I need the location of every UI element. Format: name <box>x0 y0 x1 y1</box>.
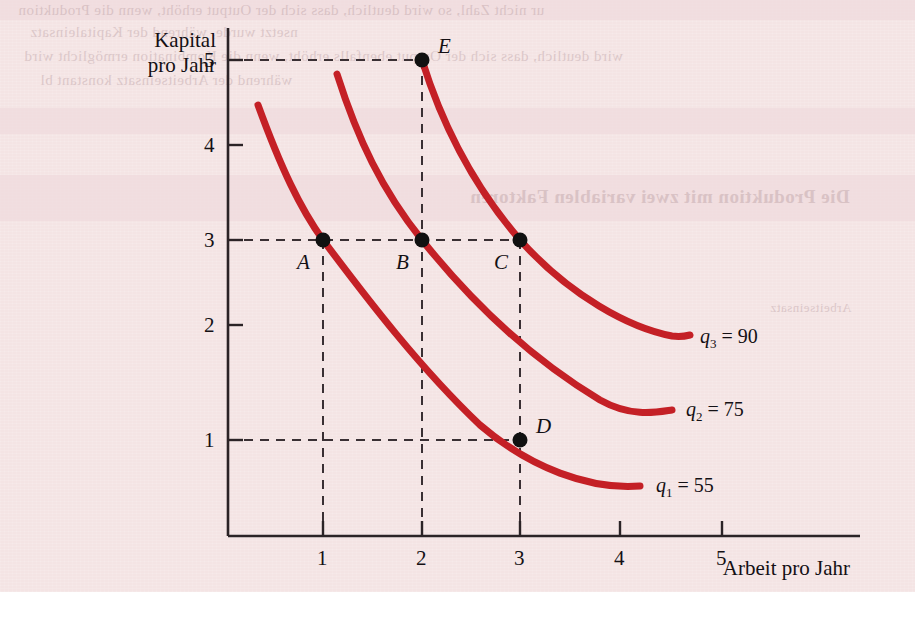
point-label-c: C <box>494 250 508 275</box>
point-label-d: D <box>536 414 551 439</box>
y-axis-title: Kapital pro Jahr <box>108 28 216 78</box>
isoquant-subscript-q3: 3 <box>710 336 717 351</box>
y-tick-label-3: 3 <box>204 228 215 253</box>
x-tick-label-4: 4 <box>614 546 625 571</box>
point-marker-a <box>316 233 331 248</box>
isoquant-value-q3: 90 <box>738 325 758 347</box>
y-tick-label-4: 4 <box>204 133 215 158</box>
isoquant-label-q2: q2 = 75 <box>686 398 744 425</box>
y-tick-label-1: 1 <box>204 428 215 453</box>
x-tick-label-2: 2 <box>416 546 427 571</box>
point-marker-e <box>415 53 430 68</box>
axis-lines <box>228 28 860 536</box>
x-tick-label-5: 5 <box>716 546 727 571</box>
point-marker-d <box>513 433 528 448</box>
isoquant-symbol-q1: q <box>656 474 666 496</box>
isoquant-symbol-q2: q <box>686 398 696 420</box>
isoquant-equals-q2: = <box>708 398 719 420</box>
x-axis-title: Arbeit pro Jahr <box>690 556 850 581</box>
x-tick-label-3: 3 <box>514 546 525 571</box>
isoquant-label-q3: q3 = 90 <box>700 325 758 352</box>
isoquant-subscript-q1: 1 <box>666 485 673 500</box>
isoquant-plot <box>0 0 915 592</box>
isoquant-figure: ur nicht Zahl, so wird deutlich, dass si… <box>0 0 915 592</box>
isoquant-equals-q1: = <box>678 474 689 496</box>
point-label-e: E <box>438 34 451 59</box>
x-tick-label-1: 1 <box>317 546 328 571</box>
isoquant-symbol-q3: q <box>700 325 710 347</box>
isoquant-subscript-q2: 2 <box>696 409 703 424</box>
point-label-b: B <box>396 250 409 275</box>
point-marker-c <box>513 233 528 248</box>
isoquant-curve-q3 <box>422 60 690 336</box>
y-tick-label-5: 5 <box>204 48 215 73</box>
y-tick-label-2: 2 <box>204 313 215 338</box>
isoquant-curve-q2 <box>337 74 672 413</box>
point-marker-b <box>415 233 430 248</box>
isoquant-equals-q3: = <box>722 325 733 347</box>
isoquant-value-q1: 55 <box>694 474 714 496</box>
isoquant-label-q1: q1 = 55 <box>656 474 714 501</box>
point-label-a: A <box>297 250 310 275</box>
isoquant-value-q2: 75 <box>724 398 744 420</box>
